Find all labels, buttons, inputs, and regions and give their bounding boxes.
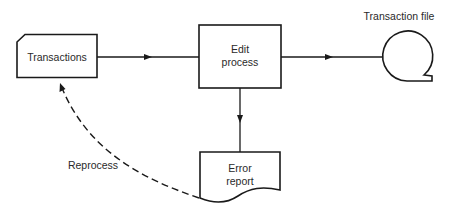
flowchart-canvas: Transactions Edit process Transaction fi…: [0, 0, 451, 216]
edit-process-label-line2: process: [222, 56, 259, 68]
arrowhead-down-icon: [237, 115, 243, 123]
transaction-file-node[interactable]: Transaction file: [364, 10, 435, 81]
dashed-connector: [62, 88, 199, 198]
transactions-label: Transactions: [27, 51, 87, 63]
edge-transactions-to-edit: [97, 54, 199, 60]
edge-reprocess: Reprocess: [60, 83, 200, 198]
magnetic-tape-shape: [383, 31, 433, 81]
edge-edit-to-error: [237, 88, 243, 152]
transaction-file-label: Transaction file: [364, 10, 435, 22]
edit-process-label-line1: Edit: [231, 43, 249, 55]
error-report-label-line2: report: [226, 175, 254, 187]
transactions-node[interactable]: Transactions: [17, 35, 97, 78]
arrowhead-right-icon: [144, 54, 152, 60]
error-report-label-line1: Error: [228, 162, 252, 174]
arrowhead-right-icon: [325, 54, 333, 60]
edit-process-node[interactable]: Edit process: [199, 25, 281, 88]
edge-edit-to-file: [281, 54, 382, 60]
reprocess-label: Reprocess: [68, 159, 118, 171]
error-report-node[interactable]: Error report: [200, 152, 280, 202]
